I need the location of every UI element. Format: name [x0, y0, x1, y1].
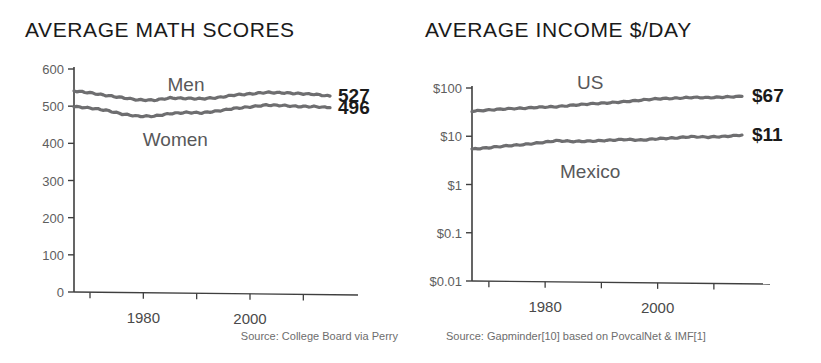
series-end-value: $67	[752, 85, 784, 107]
y-tick-label: 600	[42, 62, 64, 77]
y-tick-label: 200	[42, 210, 64, 225]
series-end-value: $11	[752, 124, 783, 146]
x-axis-line	[472, 281, 770, 284]
y-tick-label: 400	[42, 136, 64, 151]
x-tick-label: 2000	[641, 299, 674, 316]
y-tick-label: $10	[440, 129, 462, 144]
figure-board: AVERAGE MATH SCORES 01002003004005006001…	[0, 0, 821, 363]
x-tick-label: 2000	[233, 310, 266, 327]
x-tick-label: 1980	[528, 298, 561, 315]
y-tick-label: $100	[433, 81, 462, 96]
series-label: Mexico	[560, 161, 620, 183]
page-title: AVERAGE MATH SCORES	[25, 18, 295, 42]
y-tick-label: $0.01	[429, 274, 462, 289]
series-line	[472, 96, 742, 112]
chart-panel-math-scores: AVERAGE MATH SCORES 01002003004005006001…	[0, 0, 410, 363]
y-tick-label: 300	[42, 173, 64, 188]
page-title-income: AVERAGE INCOME $/DAY	[425, 18, 692, 42]
y-tick-label: 500	[42, 99, 64, 114]
y-tick-label: 100	[42, 247, 64, 262]
series-line	[74, 105, 330, 117]
series-label: US	[577, 72, 603, 94]
y-tick-label: $1	[448, 177, 462, 192]
source-note-math: Source: College Board via Perry	[241, 330, 398, 342]
source-note-income: Source: Gapminder[10] based on PovcalNet…	[446, 330, 706, 342]
x-tick-label: 1980	[127, 309, 160, 326]
y-tick-label: $0.1	[437, 225, 462, 240]
series-label: Women	[143, 129, 208, 151]
x-axis-line	[74, 292, 358, 295]
series-end-value: 496	[338, 97, 370, 119]
series-line	[472, 135, 742, 149]
chart-panel-income: AVERAGE INCOME $/DAY $0.01$0.1$1$10$1001…	[410, 0, 821, 363]
series-label: Men	[168, 74, 205, 96]
y-tick-label: 0	[57, 285, 64, 300]
